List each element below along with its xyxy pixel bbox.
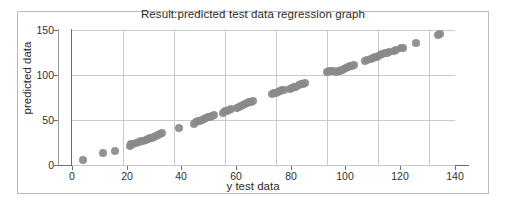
gridline-vertical (327, 30, 328, 165)
y-tick-label-0: 0 (24, 159, 54, 171)
y-tick-mark-150 (54, 30, 58, 31)
chart-figure: Result:predicted test data regression gr… (0, 0, 506, 213)
y-axis-spine (58, 29, 59, 166)
plot-area (72, 30, 455, 165)
data-point (111, 147, 119, 155)
gridline-vertical (123, 30, 124, 165)
gridline-vertical (429, 30, 430, 165)
gridline-horizontal (72, 30, 455, 31)
data-point (436, 30, 444, 38)
gridline-horizontal (72, 165, 455, 166)
y-axis-label: predicted data (21, 18, 33, 138)
data-point (301, 79, 309, 87)
data-point (210, 111, 218, 119)
x-tick-mark-60 (236, 166, 237, 170)
gridline-vertical (225, 30, 226, 165)
data-point (158, 129, 166, 137)
data-point (79, 156, 87, 164)
data-point (412, 39, 420, 47)
x-tick-mark-40 (181, 166, 182, 170)
x-tick-mark-0 (72, 166, 73, 170)
data-point (249, 97, 257, 105)
data-point (399, 44, 407, 52)
x-tick-mark-120 (400, 166, 401, 170)
x-axis-label: y test data (0, 180, 506, 192)
x-tick-mark-20 (127, 166, 128, 170)
gridline-vertical (276, 30, 277, 165)
gridline-horizontal (72, 120, 455, 121)
y-tick-mark-0 (54, 165, 58, 166)
gridline-vertical (174, 30, 175, 165)
chart-title: Result:predicted test data regression gr… (0, 8, 506, 20)
gridline-horizontal (72, 75, 455, 76)
x-tick-mark-100 (345, 166, 346, 170)
data-point (99, 149, 107, 157)
data-point (175, 124, 183, 132)
y-tick-mark-100 (54, 75, 58, 76)
x-tick-mark-140 (455, 166, 456, 170)
data-point (350, 61, 358, 69)
x-tick-mark-80 (291, 166, 292, 170)
y-tick-mark-50 (54, 120, 58, 121)
